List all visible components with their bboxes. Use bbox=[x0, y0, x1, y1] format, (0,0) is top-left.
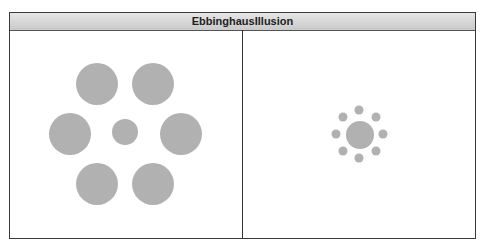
center-circle bbox=[346, 121, 374, 149]
surround-circle bbox=[379, 130, 388, 139]
figure-large-surround bbox=[49, 63, 202, 205]
surround-circle bbox=[160, 113, 202, 155]
center-circle bbox=[112, 119, 138, 145]
surround-circle bbox=[332, 130, 341, 139]
surround-circle bbox=[355, 154, 364, 163]
surround-circle bbox=[372, 147, 381, 156]
surround-circle bbox=[49, 113, 91, 155]
illusion-canvas bbox=[0, 0, 486, 250]
surround-circle bbox=[372, 113, 381, 122]
surround-circle bbox=[355, 106, 364, 115]
surround-circle bbox=[76, 163, 118, 205]
surround-circle bbox=[339, 113, 348, 122]
surround-circle bbox=[76, 63, 118, 105]
surround-circle bbox=[339, 147, 348, 156]
surround-circle bbox=[132, 163, 174, 205]
surround-circle bbox=[132, 63, 174, 105]
figure-small-surround bbox=[332, 106, 388, 163]
